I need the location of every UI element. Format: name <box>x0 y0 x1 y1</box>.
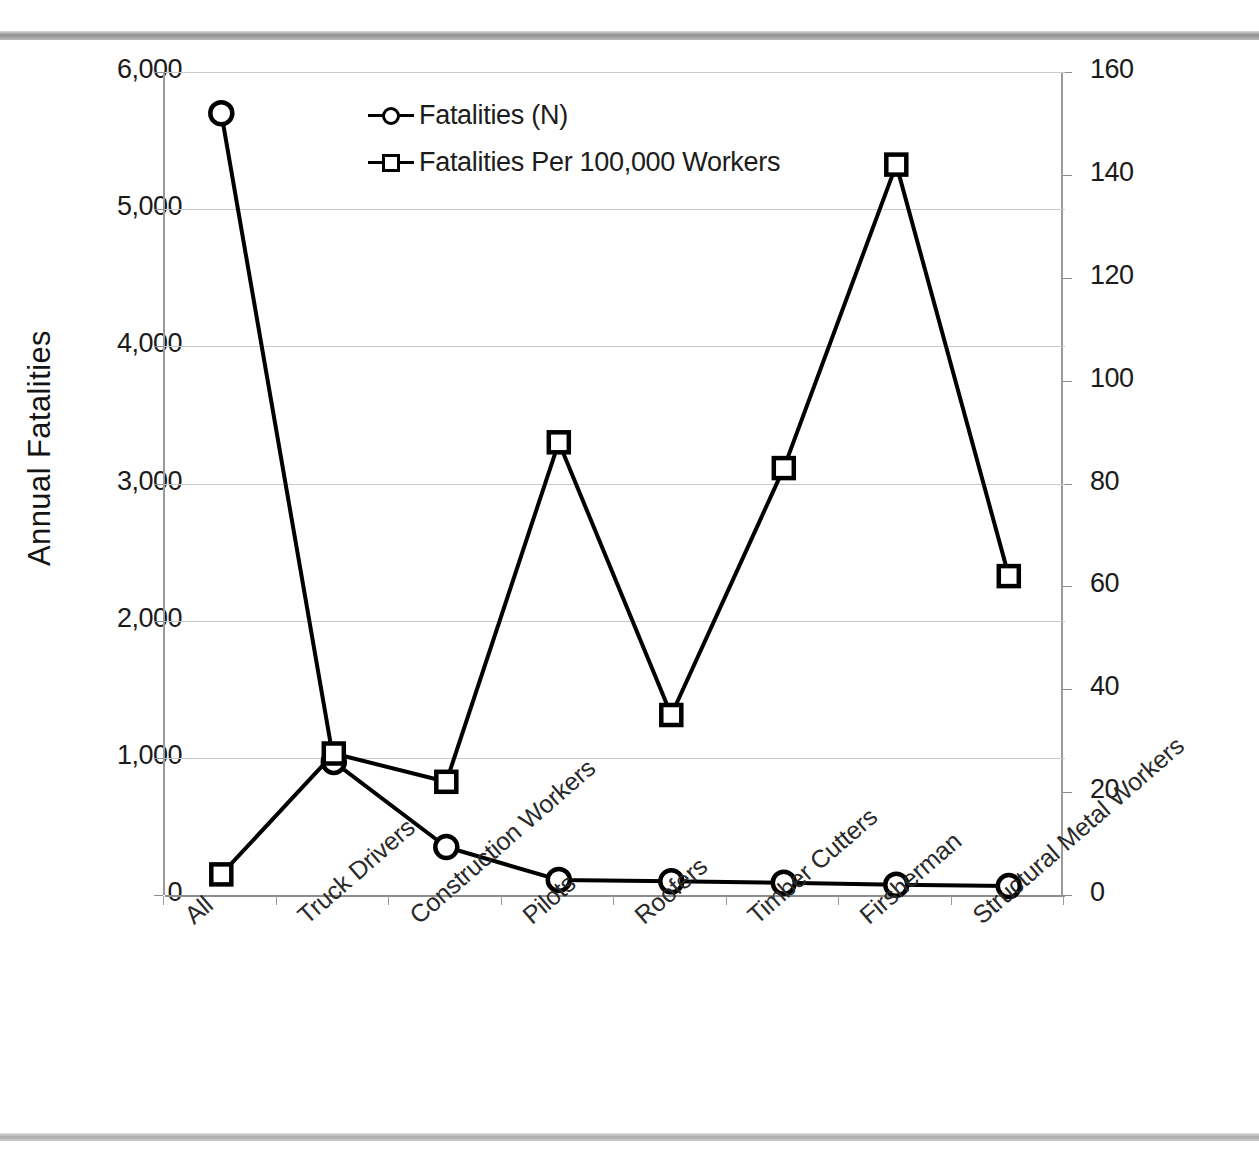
data-point-1-2[interactable] <box>436 772 456 792</box>
category-tick-2 <box>388 896 389 905</box>
category-tick-end <box>1063 896 1064 905</box>
left-tick-mark-4000 <box>154 346 163 347</box>
category-tick-1 <box>276 896 277 905</box>
right-tick-label-160: 160 <box>1090 54 1134 85</box>
category-tick-3 <box>501 896 502 905</box>
left-tick-mark-0 <box>154 895 163 896</box>
data-point-1-5[interactable] <box>774 458 794 478</box>
plot-area <box>163 72 1063 895</box>
gridline-0 <box>165 895 1065 897</box>
right-tick-label-100: 100 <box>1090 363 1134 394</box>
page-divider-bottom <box>0 1133 1259 1141</box>
legend-item-fatalities-n[interactable]: Fatalities (N) <box>368 100 780 130</box>
data-point-1-0[interactable] <box>211 864 231 884</box>
category-tick-5 <box>726 896 727 905</box>
right-tick-label-60: 60 <box>1090 568 1119 599</box>
data-point-0-0[interactable] <box>210 102 232 124</box>
data-point-1-3[interactable] <box>549 432 569 452</box>
left-tick-mark-1000 <box>154 758 163 759</box>
data-series-svg <box>165 72 1065 895</box>
circle-marker-icon <box>368 102 414 128</box>
data-point-1-1[interactable] <box>324 744 344 764</box>
chart-legend: Fatalities (N) Fatalities Per 100,000 Wo… <box>368 100 780 194</box>
left-tick-mark-5000 <box>154 209 163 210</box>
left-tick-mark-6000 <box>154 72 163 73</box>
category-tick-6 <box>838 896 839 905</box>
category-tick-4 <box>613 896 614 905</box>
data-point-1-6[interactable] <box>886 155 906 175</box>
right-tick-label-40: 40 <box>1090 671 1119 702</box>
category-tick-0 <box>163 896 164 905</box>
right-tick-label-0: 0 <box>1090 877 1105 908</box>
legend-label-1: Fatalities Per 100,000 Workers <box>419 147 780 178</box>
square-marker-icon <box>368 149 414 175</box>
data-point-1-4[interactable] <box>661 705 681 725</box>
left-tick-mark-3000 <box>154 484 163 485</box>
legend-label-0: Fatalities (N) <box>419 100 568 131</box>
data-point-0-2[interactable] <box>435 836 457 858</box>
right-tick-label-80: 80 <box>1090 466 1119 497</box>
category-tick-7 <box>951 896 952 905</box>
right-tick-label-120: 120 <box>1090 260 1134 291</box>
page-divider-top <box>0 31 1259 40</box>
data-point-1-7[interactable] <box>999 566 1019 586</box>
left-tick-mark-2000 <box>154 621 163 622</box>
chart-page: Annual Fatalities Fatality Incidence (Fa… <box>0 0 1259 1161</box>
legend-item-fatalities-per-100000[interactable]: Fatalities Per 100,000 Workers <box>368 147 780 177</box>
right-tick-label-140: 140 <box>1090 157 1134 188</box>
left-axis-title: Annual Fatalities <box>22 118 58 778</box>
